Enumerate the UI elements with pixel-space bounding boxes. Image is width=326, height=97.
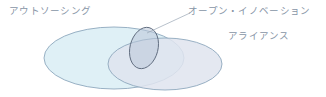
- venn-diagram-container: アウトソーシング オープン・イノベーション アライアンス: [0, 0, 326, 97]
- label-open-innovation: オープン・イノベーション: [188, 6, 311, 16]
- open-innovation-leader-line: [147, 13, 190, 33]
- ellipse-alliance: [108, 38, 222, 90]
- label-alliance: アライアンス: [228, 31, 290, 41]
- label-outsourcing: アウトソーシング: [9, 6, 91, 16]
